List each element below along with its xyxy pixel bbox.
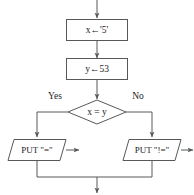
connector-no-branch bbox=[126, 112, 152, 137]
process-node-assign-y-label: y←53 bbox=[85, 64, 109, 74]
branch-label-yes: Yes bbox=[48, 91, 62, 101]
connector-yes-branch bbox=[37, 112, 68, 137]
process-node-assign-x-label: x←'5' bbox=[86, 25, 109, 35]
branch-label-no: No bbox=[132, 91, 144, 101]
flowchart-canvas: x←'5' y←53 x = y Yes No PUT "=" PUT "!=" bbox=[0, 0, 194, 195]
decision-node-compare-label: x = y bbox=[87, 107, 107, 117]
flowchart-diagram: x←'5' y←53 x = y Yes No PUT "=" PUT "!=" bbox=[0, 0, 194, 195]
io-node-put-equal-label: PUT "=" bbox=[21, 145, 53, 155]
io-node-put-not-equal-label: PUT "!=" bbox=[135, 145, 170, 155]
